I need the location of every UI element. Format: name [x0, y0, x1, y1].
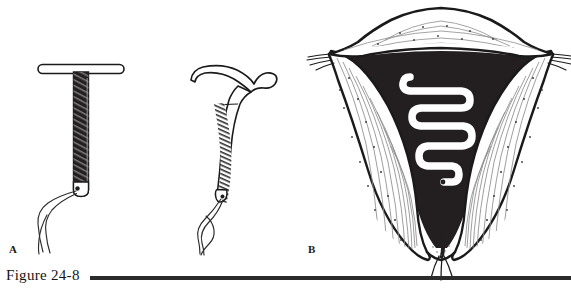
t-iud-string-eyelet — [75, 186, 79, 190]
curved-iud-strings — [198, 199, 223, 255]
figure-illustration — [0, 0, 571, 289]
curved-iud-upper-arm — [191, 66, 277, 92]
curved-iud-string-eyelet — [221, 195, 225, 199]
figure-number: Figure 24-8 — [6, 267, 80, 284]
panel-label-b: B — [308, 244, 316, 255]
uterine-fundus — [329, 8, 553, 57]
curved-stem-iud — [191, 66, 277, 255]
figure-caption: Figure 24-8 — [6, 264, 571, 286]
serpentine-loop-iud-terminal-bead — [441, 180, 446, 185]
t-iud-strings — [38, 191, 77, 254]
curved-iud-coil-top-edge — [225, 104, 239, 105]
caption-rule — [90, 276, 571, 280]
figure-page: A B Figure 24-8 — [0, 0, 571, 289]
uterus-cross-section — [307, 8, 571, 280]
t-shaped-iud — [38, 65, 124, 255]
panel-label-a: A — [9, 244, 17, 255]
